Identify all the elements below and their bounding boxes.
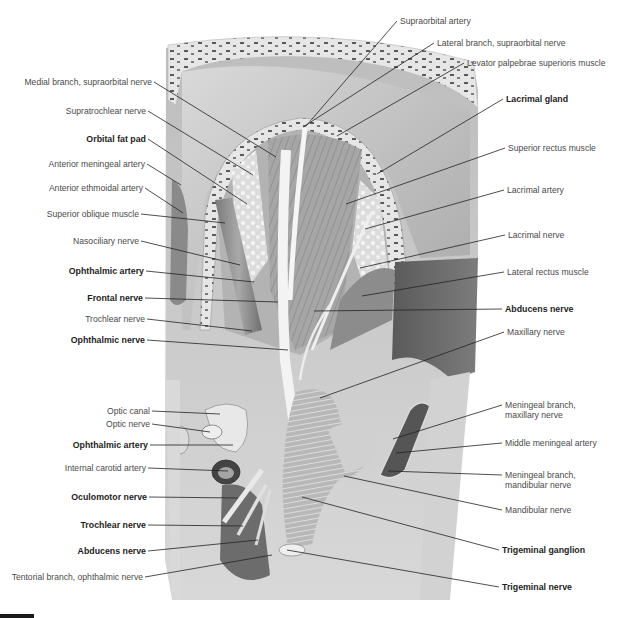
- label-nasociliary-nerve: Nasociliary nerve: [73, 236, 139, 246]
- leader-line: [147, 319, 252, 331]
- label-lacrimal-nerve: Lacrimal nerve: [508, 230, 564, 240]
- label-medial-branch-supraorbital-nerve: Medial branch, supraorbital nerve: [24, 77, 152, 87]
- label-levator-palpebrae-superioris-muscle: Levator palpebrae superioris muscle: [467, 58, 606, 68]
- leader-line: [344, 476, 502, 510]
- label-tentorial-branch-ophthalmic-nerve: Tentorial branch, ophthalmic nerve: [12, 572, 143, 582]
- label-trigeminal-nerve: Trigeminal nerve: [502, 582, 572, 592]
- label-supraorbital-artery: Supraorbital artery: [400, 16, 471, 26]
- leader-line: [147, 164, 181, 185]
- leader-line: [287, 550, 499, 587]
- label-maxillary-nerve: Maxillary nerve: [507, 327, 565, 337]
- leader-line: [154, 82, 276, 157]
- leader-line: [148, 111, 253, 175]
- label-abducens-nerve-lower: Abducens nerve: [78, 546, 146, 556]
- leader-line: [148, 139, 247, 204]
- label-meningeal-branch-maxillary-nerve: Meningeal branch, maxillary nerve: [505, 400, 610, 420]
- label-trochlear-nerve-lower: Trochlear nerve: [80, 520, 146, 530]
- leader-line: [145, 188, 183, 213]
- leader-line: [360, 235, 505, 268]
- label-abducens-nerve-upper: Abducens nerve: [505, 304, 573, 314]
- leader-line: [303, 43, 434, 127]
- label-lateral-rectus-muscle: Lateral rectus muscle: [507, 267, 589, 277]
- label-lacrimal-artery: Lacrimal artery: [507, 185, 564, 195]
- leader-line: [302, 497, 499, 550]
- label-ophthalmic-artery-lower: Ophthalmic artery: [73, 440, 148, 450]
- label-supratrochlear-nerve: Supratrochlear nerve: [66, 106, 146, 116]
- leader-line: [145, 555, 272, 577]
- leader-line: [362, 272, 504, 296]
- leader-line: [337, 63, 464, 136]
- label-internal-carotid-artery: Internal carotid artery: [65, 463, 146, 473]
- leader-line: [148, 525, 243, 526]
- label-superior-oblique-muscle: Superior oblique muscle: [47, 209, 139, 219]
- label-middle-meningeal-artery: Middle meningeal artery: [505, 438, 597, 448]
- leader-line: [314, 309, 502, 311]
- label-frontal-nerve: Frontal nerve: [87, 293, 143, 303]
- anatomy-figure: Medial branch, supraorbital nerveSupratr…: [0, 0, 621, 618]
- leader-line: [393, 405, 502, 439]
- label-optic-nerve: Optic nerve: [106, 419, 150, 429]
- leader-line: [388, 471, 502, 475]
- leader-line: [306, 21, 397, 126]
- label-meningeal-branch-mandibular-nerve: Meningeal branch, mandibular nerve: [505, 470, 610, 490]
- leader-line: [396, 443, 502, 453]
- leader-line: [141, 241, 240, 265]
- label-mandibular-nerve: Mandibular nerve: [505, 505, 571, 515]
- leader-line: [145, 298, 278, 302]
- leader-line: [320, 332, 504, 398]
- label-superior-rectus-muscle: Superior rectus muscle: [508, 143, 596, 153]
- label-ophthalmic-artery-upper: Ophthalmic artery: [69, 266, 144, 276]
- leader-line: [148, 468, 228, 471]
- label-lateral-branch-supraorbital-nerve: Lateral branch, supraorbital nerve: [437, 38, 566, 48]
- leader-line: [147, 340, 288, 350]
- leader-line: [146, 271, 254, 282]
- page-corner-mark: [0, 614, 34, 618]
- leader-line: [152, 411, 220, 414]
- label-trigeminal-ganglion: Trigeminal ganglion: [502, 545, 585, 555]
- label-anterior-ethmoidal-artery: Anterior ethmoidal artery: [49, 183, 143, 193]
- label-optic-canal: Optic canal: [107, 406, 150, 416]
- leader-line: [377, 99, 503, 174]
- leader-line: [365, 190, 504, 229]
- label-anterior-meningeal-artery: Anterior meningeal artery: [49, 159, 146, 169]
- label-trochlear-nerve-upper: Trochlear nerve: [85, 314, 145, 324]
- leader-line: [152, 424, 210, 432]
- leader-line: [149, 497, 238, 498]
- label-lacrimal-gland: Lacrimal gland: [506, 94, 568, 104]
- leader-line: [148, 540, 258, 551]
- leader-line: [346, 148, 505, 204]
- label-ophthalmic-nerve: Ophthalmic nerve: [71, 335, 145, 345]
- leader-line: [141, 214, 225, 223]
- label-oculomotor-nerve: Oculomotor nerve: [71, 492, 147, 502]
- label-orbital-fat-pad: Orbital fat pad: [86, 134, 146, 144]
